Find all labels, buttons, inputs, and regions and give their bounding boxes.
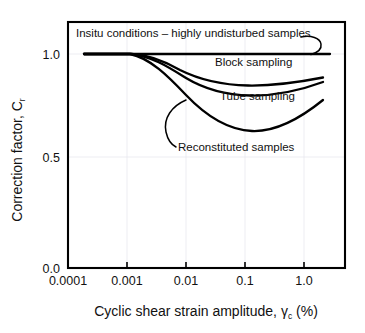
y-axis-title-subscript: r bbox=[17, 98, 27, 101]
annotation-block-sampling: Block sampling bbox=[215, 56, 292, 68]
correction-factor-chart: Insitu conditions – highly undisturbed s… bbox=[0, 0, 365, 333]
y-axis-title: Correction factor, Cr bbox=[9, 98, 27, 222]
x-tick-label-4: 0.1 bbox=[236, 274, 253, 288]
x-axis-title-part1: Cyclic shear strain amplitude, bbox=[94, 303, 281, 319]
y-tick-label-1: 1.0 bbox=[43, 48, 60, 62]
annotation-insitu-conditions: Insitu conditions – highly undisturbed s… bbox=[76, 27, 311, 39]
x-tick-label-3: 0.01 bbox=[174, 274, 198, 288]
svg-text:Correction factor, Cr: Correction factor, Cr bbox=[9, 98, 27, 222]
annotation-tube-sampling: Tube sampling bbox=[220, 90, 295, 102]
x-axis-title-part2: (%) bbox=[292, 303, 318, 319]
chart-container: Insitu conditions – highly undisturbed s… bbox=[0, 0, 365, 333]
x-tick-label-2: 0.001 bbox=[111, 274, 142, 288]
x-axis-title: Cyclic shear strain amplitude, γc (%) bbox=[94, 303, 318, 321]
y-axis-title-main: Correction factor, C bbox=[9, 101, 25, 222]
x-tick-label-5: 1.0 bbox=[295, 274, 312, 288]
annotation-reconstituted-samples: Reconstituted samples bbox=[178, 141, 295, 153]
x-axis-title-gamma: γ bbox=[281, 303, 288, 319]
y-tick-label-2: 0.5 bbox=[43, 151, 60, 165]
x-tick-label-1: 0.0001 bbox=[49, 274, 87, 288]
